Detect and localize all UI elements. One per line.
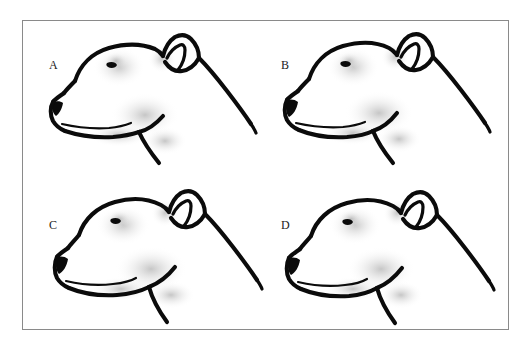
brow-stop-line-b <box>298 79 309 91</box>
dog-head-drawing-c <box>47 183 266 335</box>
muzzle-top-line-d <box>289 249 300 258</box>
shading-eye-b <box>337 52 361 70</box>
brow-stop-line-d <box>300 236 311 249</box>
muzzle-top-line-b <box>287 91 298 100</box>
shading-eye-d <box>339 210 363 228</box>
panel-a: A <box>23 21 266 176</box>
muzzle-top-line-a <box>53 93 64 102</box>
nape-line-a <box>199 58 251 124</box>
brow-stop-line-a <box>64 81 75 93</box>
figure-root: A <box>0 0 531 348</box>
nape-line-b <box>433 57 485 123</box>
neck-back-line-d <box>489 281 494 290</box>
figure-frame-border: A <box>22 20 509 330</box>
panel-d: D <box>255 181 498 336</box>
panel-c: C <box>23 181 266 336</box>
dog-head-drawing-b <box>279 23 498 175</box>
panel-b: B <box>255 21 498 176</box>
brow-stop-line-c <box>68 235 79 248</box>
muzzle-top-line-c <box>57 248 68 257</box>
dog-head-drawing-d <box>279 183 498 335</box>
nape-line-d <box>437 215 489 281</box>
neck-back-line-b <box>485 123 490 132</box>
nape-line-c <box>205 214 257 280</box>
dog-head-drawing-a <box>47 23 266 175</box>
shading-eye-a <box>104 52 128 70</box>
